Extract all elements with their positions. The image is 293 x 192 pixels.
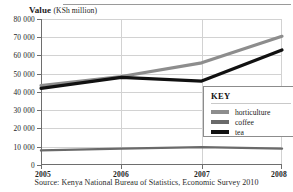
legend-item-tea: tea — [211, 127, 291, 137]
ylabel-40000: 40 000 — [13, 88, 35, 97]
ylabel-50000: 50 000 — [13, 70, 35, 79]
legend-item-coffee: coffee — [211, 117, 291, 127]
legend-item-horticulture: horticulture — [211, 107, 291, 117]
ylabel-10000: 10 000 — [13, 143, 35, 152]
legend-label-horticulture: horticulture — [235, 108, 270, 117]
axis-title-main: Value — [29, 5, 51, 15]
legend-title: KEY — [211, 91, 291, 104]
ylabel-30000: 30 000 — [13, 106, 35, 115]
ylabel-20000: 20 000 — [13, 124, 35, 133]
plot-area: 80 000 70 000 60 000 50 000 40 000 30 00… — [41, 19, 282, 165]
tick-x-2005 — [41, 165, 42, 169]
ylabel-70000: 70 000 — [13, 33, 35, 42]
chart-legend: KEY horticulture coffee tea — [203, 86, 293, 137]
chart-figure: Value (KSh million) 80 000 70 000 60 000… — [0, 0, 293, 192]
tick-x-2006 — [121, 165, 122, 169]
tick-x-2007 — [202, 165, 203, 169]
top-divider — [63, 4, 291, 5]
legend-swatch-horticulture — [211, 110, 229, 114]
ylabel-60000: 60 000 — [13, 51, 35, 60]
chart-axis-title: Value (KSh million) — [29, 5, 97, 15]
legend-swatch-coffee — [211, 120, 229, 124]
series-line-coffee — [41, 147, 282, 150]
tick-x-2008 — [281, 165, 282, 169]
ylabel-0: 0 — [31, 161, 35, 170]
legend-swatch-tea — [211, 130, 229, 134]
axis-title-units: (KSh million) — [53, 6, 97, 15]
legend-label-tea: tea — [235, 128, 244, 137]
source-caption: Source: Kenya National Bureau of Statist… — [0, 178, 293, 187]
legend-label-coffee: coffee — [235, 118, 254, 127]
ylabel-80000: 80 000 — [13, 15, 35, 24]
